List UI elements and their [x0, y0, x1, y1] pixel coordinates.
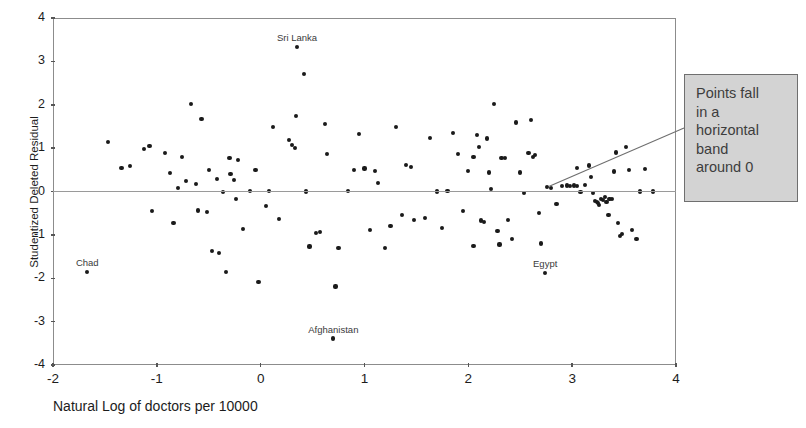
y-tick-label: -2 — [21, 270, 45, 284]
data-point — [587, 163, 591, 167]
data-point — [643, 167, 647, 171]
y-tick-mark — [51, 321, 55, 323]
data-point-label: Chad — [76, 257, 99, 268]
data-point — [514, 120, 518, 124]
data-point — [634, 237, 638, 241]
y-tick-label: -3 — [21, 314, 45, 328]
annotation-line-4: band — [696, 140, 797, 159]
y-tick-mark — [51, 17, 55, 19]
data-point — [176, 186, 180, 190]
data-point — [616, 221, 620, 225]
data-point — [539, 241, 543, 245]
data-point — [400, 213, 404, 217]
y-tick-mark — [51, 104, 55, 106]
x-tick-mark — [468, 363, 470, 367]
scatter-plot-figure: Studentized Deleted Residual -4-3-2-1012… — [0, 0, 806, 428]
data-point — [171, 221, 175, 225]
data-point — [227, 156, 231, 160]
annotation-line-1: Points fall — [696, 84, 797, 103]
data-point — [333, 284, 337, 288]
data-point — [503, 156, 507, 160]
data-point — [388, 224, 392, 228]
zero-reference-line — [53, 191, 676, 192]
data-point — [323, 122, 327, 126]
data-point — [612, 169, 616, 173]
data-point — [376, 181, 380, 185]
x-tick-mark — [571, 363, 573, 367]
data-point — [325, 152, 329, 156]
data-point — [487, 170, 491, 174]
y-tick-label: 0 — [21, 184, 45, 198]
data-point — [373, 169, 377, 173]
x-tick-label: -2 — [40, 371, 66, 386]
x-tick-mark — [260, 363, 262, 367]
data-point — [471, 155, 475, 159]
x-tick-label: 1 — [352, 371, 378, 386]
y-tick-label: 4 — [21, 10, 45, 24]
annotation-line-2: in a — [696, 103, 797, 122]
x-tick-mark — [675, 363, 677, 367]
y-tick-label: 2 — [21, 97, 45, 111]
annotation-callout: Points fall in a horizontal band around … — [684, 74, 798, 202]
x-tick-label: 2 — [455, 371, 481, 386]
data-point — [451, 131, 455, 135]
data-point — [241, 227, 245, 231]
x-tick-mark — [52, 363, 54, 367]
y-tick-label: 3 — [21, 53, 45, 67]
y-tick-mark — [51, 234, 55, 236]
data-point — [477, 145, 481, 149]
data-point — [150, 209, 154, 213]
data-point — [336, 246, 340, 250]
data-point — [256, 280, 260, 284]
data-point-label: Egypt — [533, 258, 557, 269]
data-point — [307, 244, 311, 248]
y-tick-label: -1 — [21, 227, 45, 241]
x-tick-label: 3 — [559, 371, 585, 386]
data-point — [485, 136, 489, 140]
data-point — [210, 249, 214, 253]
data-point-label: Afghanistan — [308, 324, 358, 335]
data-point — [497, 242, 501, 246]
data-point-label: Sri Lanka — [277, 32, 317, 43]
annotation-line-3: horizontal — [696, 121, 797, 140]
x-tick-label: 4 — [663, 371, 689, 386]
y-tick-mark — [51, 278, 55, 280]
data-point — [264, 204, 268, 208]
data-point — [482, 220, 486, 224]
data-point — [554, 202, 558, 206]
data-point — [614, 150, 618, 154]
data-point — [368, 228, 372, 232]
data-point — [471, 244, 475, 248]
x-tick-label: 0 — [248, 371, 274, 386]
data-point — [475, 133, 479, 137]
data-point — [529, 118, 533, 122]
x-axis-title: Natural Log of doctors per 10000 — [53, 398, 453, 414]
x-tick-label: -1 — [144, 371, 170, 386]
y-tick-label: 1 — [21, 140, 45, 154]
data-point — [253, 168, 257, 172]
annotation-line-5: around 0 — [696, 158, 797, 177]
data-point — [180, 155, 184, 159]
data-point — [583, 183, 587, 187]
data-point — [228, 172, 232, 176]
data-point — [533, 153, 537, 157]
x-tick-mark — [156, 363, 158, 367]
x-tick-mark — [364, 363, 366, 367]
data-point — [506, 218, 510, 222]
y-tick-mark — [51, 147, 55, 149]
y-tick-label: -4 — [21, 357, 45, 371]
data-point — [287, 138, 291, 142]
data-point — [404, 163, 408, 167]
data-point — [199, 117, 203, 121]
y-tick-mark — [51, 61, 55, 63]
data-point — [234, 197, 238, 201]
data-point — [119, 166, 123, 170]
data-point — [518, 170, 522, 174]
data-point — [362, 166, 366, 170]
data-point — [184, 179, 188, 183]
